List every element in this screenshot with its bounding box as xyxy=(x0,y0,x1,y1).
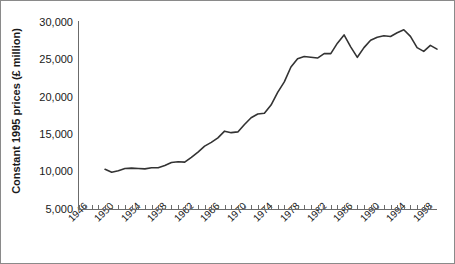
x-axis-tick-marks xyxy=(80,205,431,210)
data-series-group xyxy=(105,30,437,172)
chart-plot-area xyxy=(1,1,455,264)
chart-figure: Constant 1995 prices (£ million) 30,0002… xyxy=(0,0,455,264)
data-series-line xyxy=(105,30,437,172)
axis-lines xyxy=(79,21,438,210)
